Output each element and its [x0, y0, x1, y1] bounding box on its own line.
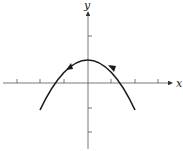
x-axis-label: x: [176, 77, 183, 90]
x-ticks: [17, 79, 158, 83]
y-axis-label: y: [83, 0, 91, 12]
parabola-curve: [40, 60, 135, 110]
y-ticks: [88, 36, 92, 132]
left-direction-arrow-icon: [66, 63, 73, 70]
graph-canvas: x y: [0, 0, 183, 151]
